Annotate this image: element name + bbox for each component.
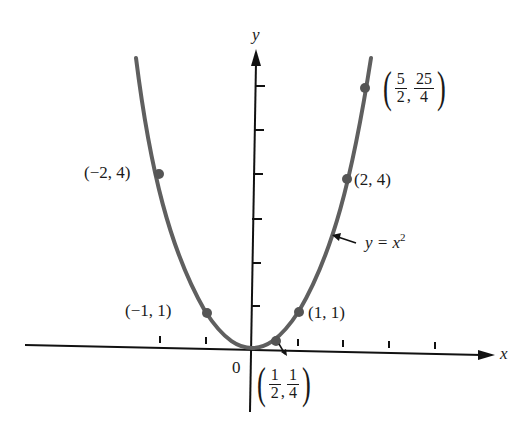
separator: ,: [281, 383, 285, 400]
curve-equation-label: y = x2: [365, 232, 406, 251]
point-1-1: [294, 307, 304, 317]
label-neg1-1: (−1, 1): [125, 302, 171, 319]
label-neg2-4: (−2, 4): [84, 164, 130, 181]
label-2-4: (2, 4): [354, 171, 391, 188]
denominator: 2: [269, 385, 281, 402]
point-2-4: [342, 174, 352, 184]
x-axis-arrow-icon: [478, 350, 495, 360]
close-paren: ): [437, 66, 446, 110]
separator: ,: [407, 87, 411, 104]
curve-label-pointer: [338, 237, 356, 243]
fraction-x: 1 2: [269, 367, 281, 402]
denominator: 4: [287, 385, 299, 402]
close-paren: ): [302, 362, 311, 406]
curve-equation-exponent: 2: [400, 231, 406, 243]
point-5half: [360, 83, 370, 93]
fraction-y: 1 4: [287, 367, 299, 402]
numerator: 25: [414, 71, 434, 89]
numerator: 1: [269, 367, 281, 385]
y-axis-label: y: [252, 26, 260, 43]
denominator: 4: [418, 89, 430, 106]
open-paren: (: [257, 362, 266, 406]
y-axis: [250, 62, 256, 412]
fraction-x: 5 2: [395, 71, 407, 106]
x-ticks: [160, 336, 435, 349]
numerator: 1: [287, 367, 299, 385]
label-five-half: ( 5 2 , 25 4 ): [380, 66, 449, 110]
point-neg1-1: [202, 308, 212, 318]
fraction-y: 25 4: [414, 71, 434, 106]
label-1-1: (1, 1): [308, 304, 345, 321]
origin-label: 0: [232, 359, 241, 376]
denominator: 2: [395, 89, 407, 106]
numerator: 5: [395, 71, 407, 89]
point-neg2-4: [154, 169, 164, 179]
open-paren: (: [383, 66, 392, 110]
label-half-quarter: ( 1 2 , 1 4 ): [254, 362, 314, 406]
curve-equation-text: y = x: [365, 233, 400, 252]
y-axis-arrow-icon: [251, 49, 261, 66]
x-axis-label: x: [500, 345, 508, 362]
